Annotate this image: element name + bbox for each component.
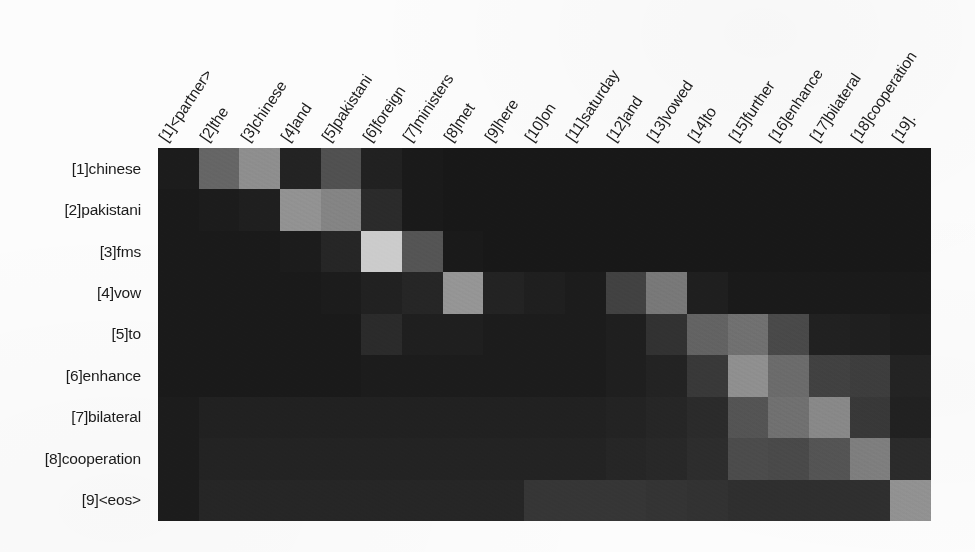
heatmap-cell — [606, 355, 647, 396]
heatmap-cell — [402, 231, 443, 272]
heatmap-cell — [565, 272, 606, 313]
heatmap-cell — [646, 355, 687, 396]
heatmap-cell — [443, 231, 484, 272]
row-label: [3]fms — [0, 231, 150, 272]
heatmap-cell — [768, 397, 809, 438]
heatmap-cell — [158, 438, 199, 479]
heatmap-cell — [687, 438, 728, 479]
heatmap-cell — [483, 480, 524, 521]
heatmap-cell — [524, 231, 565, 272]
heatmap-cell — [646, 438, 687, 479]
heatmap-cell — [361, 189, 402, 230]
heatmap-cell — [606, 148, 647, 189]
row-axis-labels: [1]chinese[2]pakistani[3]fms[4]vow[5]to[… — [0, 148, 150, 521]
row-label: [7]bilateral — [0, 397, 150, 438]
heatmap-cell — [687, 314, 728, 355]
heatmap-cell — [809, 314, 850, 355]
heatmap-cell — [606, 438, 647, 479]
heatmap-cell — [199, 397, 240, 438]
heatmap-cell — [402, 480, 443, 521]
heatmap-cell — [890, 148, 931, 189]
heatmap-cell — [443, 397, 484, 438]
heatmap-cell — [361, 438, 402, 479]
heatmap-cell — [402, 272, 443, 313]
heatmap-cell — [402, 438, 443, 479]
heatmap-cell — [606, 314, 647, 355]
heatmap-row — [158, 189, 931, 230]
heatmap-cell — [239, 272, 280, 313]
heatmap-cell — [280, 480, 321, 521]
heatmap-cell — [809, 272, 850, 313]
row-label: [5]to — [0, 314, 150, 355]
row-label: [1]chinese — [0, 148, 150, 189]
heatmap-cell — [646, 314, 687, 355]
heatmap-cell — [850, 480, 891, 521]
heatmap-cell — [199, 438, 240, 479]
heatmap-cell — [443, 480, 484, 521]
heatmap-cell — [321, 231, 362, 272]
heatmap-cell — [809, 231, 850, 272]
heatmap-cell — [890, 397, 931, 438]
heatmap-cell — [280, 438, 321, 479]
heatmap-row — [158, 148, 931, 189]
heatmap-cell — [565, 148, 606, 189]
heatmap-cell — [483, 355, 524, 396]
heatmap-cell — [524, 397, 565, 438]
column-label: [10]on — [521, 100, 560, 145]
heatmap-cell — [809, 480, 850, 521]
heatmap-cell — [199, 189, 240, 230]
heatmap-cell — [809, 438, 850, 479]
heatmap-cell — [158, 314, 199, 355]
heatmap-cell — [809, 397, 850, 438]
heatmap-cell — [199, 148, 240, 189]
heatmap-cell — [728, 314, 769, 355]
heatmap-cell — [850, 314, 891, 355]
heatmap-cell — [687, 480, 728, 521]
heatmap-cell — [443, 148, 484, 189]
heatmap-cell — [483, 314, 524, 355]
heatmap-cell — [524, 148, 565, 189]
column-label: [9]here — [481, 96, 522, 145]
heatmap-cell — [443, 314, 484, 355]
heatmap-cell — [524, 480, 565, 521]
heatmap-cell — [443, 272, 484, 313]
heatmap-cell — [890, 231, 931, 272]
heatmap-cell — [565, 314, 606, 355]
heatmap-cell — [483, 397, 524, 438]
heatmap-cell — [728, 438, 769, 479]
heatmap-cell — [443, 355, 484, 396]
heatmap-cell — [524, 272, 565, 313]
heatmap-cell — [280, 189, 321, 230]
heatmap-cell — [565, 355, 606, 396]
heatmap-cell — [768, 314, 809, 355]
heatmap-cell — [850, 355, 891, 396]
heatmap-row — [158, 397, 931, 438]
heatmap-cell — [728, 189, 769, 230]
heatmap-cell — [199, 480, 240, 521]
heatmap-cell — [850, 438, 891, 479]
heatmap-cell — [239, 480, 280, 521]
heatmap-cell — [890, 272, 931, 313]
heatmap-cell — [239, 438, 280, 479]
heatmap-cell — [565, 231, 606, 272]
heatmap-cell — [199, 355, 240, 396]
heatmap-cell — [687, 355, 728, 396]
heatmap-cell — [402, 314, 443, 355]
heatmap-cell — [361, 480, 402, 521]
heatmap-cell — [402, 189, 443, 230]
heatmap-cell — [606, 272, 647, 313]
heatmap-cell — [361, 397, 402, 438]
heatmap-row — [158, 355, 931, 396]
heatmap-grid — [158, 148, 931, 521]
heatmap-cell — [646, 148, 687, 189]
heatmap-cell — [280, 355, 321, 396]
heatmap-cell — [768, 355, 809, 396]
heatmap-cell — [809, 148, 850, 189]
heatmap-cell — [850, 148, 891, 189]
heatmap-cell — [646, 272, 687, 313]
heatmap-cell — [361, 314, 402, 355]
heatmap-cell — [158, 397, 199, 438]
heatmap-cell — [565, 480, 606, 521]
heatmap-cell — [280, 231, 321, 272]
heatmap-cell — [199, 272, 240, 313]
